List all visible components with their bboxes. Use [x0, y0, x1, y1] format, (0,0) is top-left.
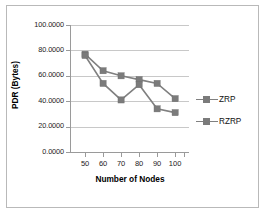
y-axis-tick [66, 127, 71, 128]
x-axis-tick-label: 50 [81, 159, 89, 168]
x-axis-tick-label: 90 [153, 159, 161, 168]
legend-entry-zrp: ZRP [196, 88, 258, 110]
data-point-marker [100, 80, 106, 86]
chart-legend: ZRPRZRP [196, 88, 258, 132]
x-axis-tick [121, 153, 122, 157]
legend-label: RZRP [218, 117, 241, 126]
x-axis-tick [157, 153, 158, 157]
x-axis-tick [184, 153, 185, 157]
x-axis-tick [85, 153, 86, 157]
y-axis-tick [66, 76, 71, 77]
legend-marker-icon [196, 116, 218, 126]
x-axis-tick-label: 100 [169, 159, 182, 168]
data-point-marker [82, 52, 88, 58]
x-axis-tick-label: 70 [117, 159, 125, 168]
x-axis-title: Number of Nodes [60, 174, 200, 184]
x-axis-tick [139, 153, 140, 157]
data-point-marker [172, 96, 178, 102]
data-point-marker [100, 68, 106, 74]
x-axis-tick [175, 153, 176, 157]
chart-figure: 0.000020.000040.000060.000080.0000100.00… [0, 0, 267, 218]
x-axis-tick-label: 60 [99, 159, 107, 168]
y-axis-tick [66, 152, 71, 153]
y-axis-tick [66, 101, 71, 102]
legend-label: ZRP [218, 95, 235, 104]
y-axis-tick [66, 50, 71, 51]
legend-marker-icon [196, 94, 218, 104]
legend-entry-rzrp: RZRP [196, 110, 258, 132]
series-line-rzrp [85, 55, 175, 112]
data-point-marker [118, 97, 124, 103]
data-point-marker [136, 82, 142, 88]
x-axis-tick [103, 153, 104, 157]
data-point-marker [154, 80, 160, 86]
y-axis-tick [66, 25, 71, 26]
x-axis-tick-label: 80 [135, 159, 143, 168]
data-point-marker [118, 73, 124, 79]
data-point-marker [172, 110, 178, 116]
data-point-marker [154, 106, 160, 112]
